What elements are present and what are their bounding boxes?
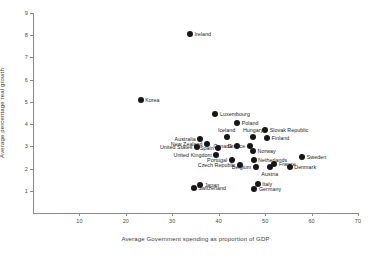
y-tick-mark (30, 102, 33, 103)
data-point-label: Iceland (218, 127, 235, 133)
y-tick-label: 6 (25, 77, 28, 83)
y-axis-line (33, 13, 34, 213)
y-tick-mark (30, 57, 33, 58)
y-tick-label: 4 (25, 121, 28, 127)
data-point-label: Sweden (307, 154, 326, 160)
data-point (250, 148, 256, 154)
data-point-label: Luxembourg (220, 111, 250, 117)
y-tick-label: 2 (25, 166, 28, 172)
y-tick-mark (30, 169, 33, 170)
x-tick-label: 40 (216, 218, 222, 224)
x-tick-mark (79, 213, 80, 216)
y-tick-label: 1 (25, 188, 28, 194)
data-point (287, 164, 293, 170)
scatter-chart-figure: 123456789 10203040506070 IrelandKoreaLux… (0, 0, 375, 262)
data-point (234, 120, 240, 126)
data-point (251, 157, 257, 163)
plot-area: 123456789 10203040506070 IrelandKoreaLux… (33, 13, 358, 213)
y-tick-label: 5 (25, 99, 28, 105)
y-tick-mark (30, 191, 33, 192)
data-point-label: Greece (228, 143, 246, 149)
data-point-label: Korea (145, 97, 159, 103)
data-point-label: Denmark (294, 164, 316, 170)
data-point-label: Czech Republic (198, 162, 236, 168)
x-tick-mark (312, 213, 313, 216)
data-point-label: Spain (200, 145, 214, 151)
x-tick-mark (219, 213, 220, 216)
data-point (253, 164, 259, 170)
data-point-label: United States (160, 144, 192, 150)
data-point (251, 186, 257, 192)
x-tick-mark (358, 213, 359, 216)
data-point (212, 111, 218, 117)
y-tick-mark (30, 146, 33, 147)
y-tick-mark (30, 13, 33, 14)
y-tick-label: 9 (25, 10, 28, 16)
x-tick-label: 20 (123, 218, 129, 224)
y-tick-mark (30, 124, 33, 125)
data-point (250, 134, 256, 140)
x-axis-line (33, 213, 358, 214)
x-tick-label: 30 (169, 218, 175, 224)
x-axis-title: Average Government spending as proportio… (33, 236, 358, 242)
x-tick-label: 60 (308, 218, 314, 224)
y-tick-label: 7 (25, 54, 28, 60)
data-point-label: Austria (261, 171, 278, 177)
y-tick-label: 8 (25, 32, 28, 38)
x-tick-mark (265, 213, 266, 216)
y-axis-title: Average percentage real growth (0, 38, 5, 188)
data-point-label: Slovak Republic (270, 127, 309, 133)
data-point-label: Germany (259, 186, 281, 192)
data-point-label: Norway (258, 148, 276, 154)
x-tick-label: 70 (355, 218, 361, 224)
y-tick-label: 3 (25, 143, 28, 149)
data-point (191, 185, 197, 191)
x-tick-mark (126, 213, 127, 216)
data-point (224, 134, 230, 140)
data-point-label: Finland (272, 135, 290, 141)
data-point (299, 154, 305, 160)
data-point-label: Belgium (232, 164, 252, 170)
data-point-label: Switzerland (198, 185, 226, 191)
data-point-label: Poland (242, 120, 259, 126)
data-point (264, 135, 270, 141)
x-tick-mark (172, 213, 173, 216)
y-tick-mark (30, 35, 33, 36)
data-point-label: Ireland (194, 31, 211, 37)
data-point (138, 97, 144, 103)
data-point (187, 31, 193, 37)
x-tick-label: 50 (262, 218, 268, 224)
data-point-label: Hungary (243, 127, 263, 133)
data-point (271, 161, 277, 167)
y-tick-mark (30, 80, 33, 81)
x-tick-label: 10 (76, 218, 82, 224)
